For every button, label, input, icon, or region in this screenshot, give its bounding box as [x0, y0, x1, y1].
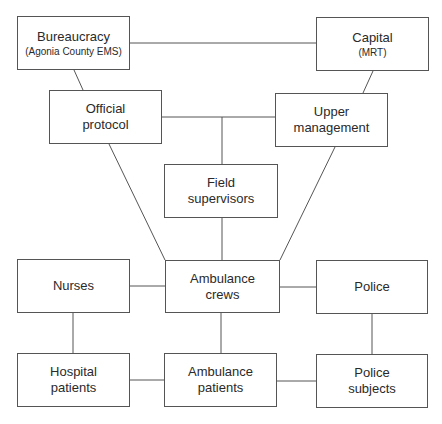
edge-capital-upper-management [363, 71, 373, 93]
edge-bureaucracy-official-protocol [74, 70, 83, 90]
node-nurses: Nurses [17, 259, 130, 313]
node-ambulance-patients: Ambulance patients [164, 353, 277, 407]
node-capital: Capital (MRT) [316, 17, 429, 71]
node-sublabel: (MRT) [358, 46, 386, 59]
node-label: Hospital patients [39, 364, 109, 396]
node-label: Upper management [287, 104, 377, 136]
edge-upper-management-ambulance-crews [280, 147, 335, 260]
node-label: Field supervisors [181, 175, 261, 207]
node-label: Ambulance patients [181, 364, 261, 396]
edge-official-protocol-ambulance-crews [109, 144, 165, 260]
node-bureaucracy: Bureaucracy (Agonia County EMS) [17, 16, 130, 70]
node-sublabel: (Agonia County EMS) [25, 45, 122, 58]
node-label: Police [354, 279, 389, 295]
node-label: Ambulance crews [183, 271, 263, 303]
node-label: Bureaucracy [37, 29, 110, 45]
node-label: Nurses [53, 278, 94, 294]
node-field-supervisors: Field supervisors [164, 164, 278, 218]
node-official-protocol: Official protocol [49, 90, 162, 144]
node-label: Official protocol [71, 101, 141, 133]
node-upper-management: Upper management [275, 93, 388, 147]
node-label: Capital [352, 30, 392, 46]
node-police-subjects: Police subjects [316, 354, 428, 408]
node-ambulance-crews: Ambulance crews [165, 260, 280, 313]
node-label: Police subjects [337, 365, 407, 397]
node-hospital-patients: Hospital patients [17, 353, 130, 407]
node-police: Police [316, 260, 428, 314]
